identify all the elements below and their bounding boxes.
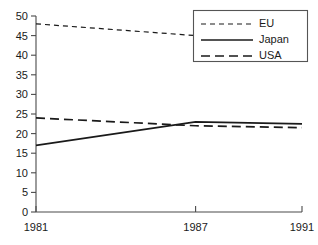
y-tick-label: 50 <box>16 10 28 22</box>
x-tick-group: 198119871991 <box>24 206 314 233</box>
y-tick-label: 20 <box>16 128 28 140</box>
y-tick-label: 25 <box>16 108 28 120</box>
x-tick-label: 1987 <box>183 221 207 233</box>
y-tick-label: 35 <box>16 69 28 81</box>
y-axis: 05101520253035404550 <box>16 10 36 218</box>
chart-legend: EUJapanUSA <box>194 11 308 62</box>
legend-label-usa: USA <box>259 49 282 61</box>
x-tick-label: 1981 <box>24 221 48 233</box>
y-tick-label: 10 <box>16 167 28 179</box>
y-tick-label: 30 <box>16 88 28 100</box>
legend-label-eu: EU <box>259 17 274 29</box>
series-line-japan <box>36 122 302 146</box>
x-tick-label: 1991 <box>290 221 314 233</box>
series-line-eu <box>36 24 196 36</box>
y-tick-label: 40 <box>16 49 28 61</box>
legend-border <box>194 11 308 62</box>
y-tick-label: 5 <box>22 186 28 198</box>
y-tick-label: 45 <box>16 30 28 42</box>
y-tick-label: 0 <box>22 206 28 218</box>
legend-label-japan: Japan <box>259 33 289 45</box>
chart-canvas: 05101520253035404550 198119871991 EUJapa… <box>0 0 318 245</box>
x-axis: 198119871991 <box>24 206 314 233</box>
y-tick-group: 05101520253035404550 <box>16 10 36 218</box>
line-chart: 05101520253035404550 198119871991 EUJapa… <box>0 0 318 245</box>
y-tick-label: 15 <box>16 147 28 159</box>
